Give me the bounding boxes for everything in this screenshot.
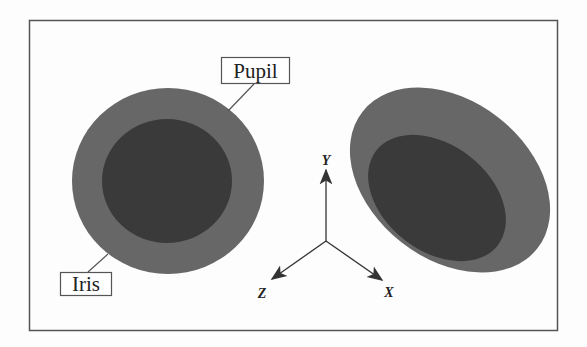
- x-axis-label: X: [383, 285, 394, 300]
- pupil-label: Pupil: [222, 58, 290, 84]
- tilted-eye: [314, 49, 586, 310]
- frontal-eye: [72, 88, 264, 274]
- pupil-leader-line: [228, 84, 254, 111]
- pupil-shape-frontal: [102, 119, 232, 243]
- z-axis-label: Z: [257, 286, 267, 301]
- iris-label-text: Iris: [72, 272, 100, 296]
- eye-diagram: Pupil Iris Y Z X: [0, 0, 587, 347]
- iris-leader-line: [88, 254, 108, 272]
- z-axis-arrow: [272, 241, 326, 279]
- pupil-label-text: Pupil: [233, 59, 278, 83]
- iris-label: Iris: [61, 272, 112, 296]
- y-axis-label: Y: [322, 153, 332, 168]
- x-axis-arrow: [326, 241, 382, 280]
